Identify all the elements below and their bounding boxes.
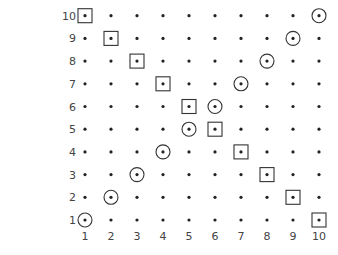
- lattice-dot: [187, 150, 190, 153]
- lattice-dot: [239, 196, 242, 199]
- lattice-dot: [239, 150, 242, 153]
- lattice-dot: [109, 60, 112, 63]
- lattice-dot: [83, 196, 86, 199]
- y-axis-label: 7: [69, 78, 76, 91]
- lattice-dot: [109, 196, 112, 199]
- lattice-dot: [213, 105, 216, 108]
- lattice-dot: [187, 173, 190, 176]
- lattice-dot: [187, 82, 190, 85]
- lattice-dot: [265, 105, 268, 108]
- lattice-dot: [239, 82, 242, 85]
- lattice-dot: [187, 218, 190, 221]
- y-axis-label: 3: [69, 169, 76, 182]
- lattice-dot: [291, 173, 294, 176]
- lattice-dot: [161, 128, 164, 131]
- lattice-dot: [135, 105, 138, 108]
- lattice-dot: [161, 196, 164, 199]
- lattice-dot: [239, 14, 242, 17]
- lattice-dot: [109, 82, 112, 85]
- lattice-dot: [239, 105, 242, 108]
- x-axis-label: 5: [186, 230, 193, 243]
- lattice-dot: [265, 14, 268, 17]
- lattice-dot: [265, 37, 268, 40]
- lattice-dot: [161, 60, 164, 63]
- lattice-dot: [265, 218, 268, 221]
- lattice-dot: [291, 105, 294, 108]
- lattice-dot: [161, 37, 164, 40]
- lattice-dot: [109, 37, 112, 40]
- lattice-dot: [317, 196, 320, 199]
- lattice-dot: [213, 60, 216, 63]
- lattice-dot: [291, 150, 294, 153]
- lattice-dot: [161, 173, 164, 176]
- lattice-dot: [317, 128, 320, 131]
- lattice-dot: [213, 218, 216, 221]
- x-axis-label: 10: [312, 230, 326, 243]
- lattice-dot: [109, 128, 112, 131]
- lattice-dot: [213, 196, 216, 199]
- lattice-dot: [291, 37, 294, 40]
- lattice-dot: [291, 60, 294, 63]
- y-axis-label: 10: [62, 10, 76, 23]
- y-axis-label: 6: [69, 101, 76, 114]
- lattice-dot: [187, 14, 190, 17]
- lattice-dot: [213, 82, 216, 85]
- lattice-dot: [135, 82, 138, 85]
- x-axis-label: 9: [290, 230, 297, 243]
- lattice-dot: [135, 37, 138, 40]
- lattice-dot: [213, 37, 216, 40]
- lattice-dot: [239, 128, 242, 131]
- lattice-dot: [109, 150, 112, 153]
- lattice-dot: [239, 173, 242, 176]
- lattice-dot: [135, 150, 138, 153]
- boxed-markers: [78, 9, 326, 227]
- lattice-dot: [161, 218, 164, 221]
- lattice-dot: [317, 60, 320, 63]
- lattice-dot: [135, 14, 138, 17]
- lattice-dot: [187, 60, 190, 63]
- lattice-dot: [83, 128, 86, 131]
- lattice-dot: [187, 37, 190, 40]
- dot-lattice-diagram: 12345678910 12345678910: [0, 0, 338, 255]
- y-axis-label: 2: [69, 191, 76, 204]
- lattice-dot: [291, 14, 294, 17]
- lattice-dot: [83, 60, 86, 63]
- lattice-dot: [291, 82, 294, 85]
- lattice-dot: [83, 37, 86, 40]
- lattice-dot: [83, 105, 86, 108]
- lattice-dot: [83, 218, 86, 221]
- lattice-dot: [109, 105, 112, 108]
- x-axis-label: 6: [212, 230, 219, 243]
- lattice-dot: [317, 173, 320, 176]
- y-axis-label: 8: [69, 55, 76, 68]
- lattice-dot: [265, 150, 268, 153]
- lattice-dot: [265, 173, 268, 176]
- x-axis-label: 4: [160, 230, 167, 243]
- lattice-dot: [187, 128, 190, 131]
- lattice-dot: [135, 60, 138, 63]
- lattice-dot: [83, 173, 86, 176]
- lattice-dot: [317, 14, 320, 17]
- lattice-dot: [291, 218, 294, 221]
- lattice-dot: [317, 82, 320, 85]
- lattice-dot: [265, 196, 268, 199]
- lattice-dot: [265, 128, 268, 131]
- y-axis-label: 4: [69, 146, 76, 159]
- lattice-dot: [83, 14, 86, 17]
- lattice-dot: [109, 14, 112, 17]
- lattice-dot: [317, 150, 320, 153]
- lattice-dot: [317, 218, 320, 221]
- lattice-dot: [265, 60, 268, 63]
- x-axis-labels: 12345678910: [82, 230, 327, 243]
- lattice-dot: [109, 173, 112, 176]
- y-axis-label: 9: [69, 32, 76, 45]
- lattice-dot: [83, 150, 86, 153]
- lattice-dot: [161, 105, 164, 108]
- lattice-dot: [317, 105, 320, 108]
- circled-markers: [78, 9, 326, 227]
- lattice-dot: [213, 150, 216, 153]
- lattice-dot: [135, 173, 138, 176]
- lattice-dot: [213, 14, 216, 17]
- lattice-dot: [135, 196, 138, 199]
- lattice-dot: [109, 218, 112, 221]
